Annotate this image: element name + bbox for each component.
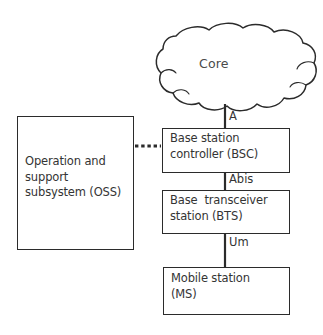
network-architecture-diagram: Core Operation and support subsystem (OS… (0, 0, 323, 335)
node-ms-label: Mobile station (MS) (171, 271, 250, 302)
interface-label-abis: Abis (229, 173, 253, 186)
node-bts-label: Base transceiver station (BTS) (170, 193, 268, 224)
core-cloud-label: Core (199, 56, 229, 71)
node-oss-label: Operation and support subsystem (OSS) (25, 154, 121, 201)
interface-label-um: Um (229, 236, 249, 249)
node-bsc-label: Base station controller (BSC) (170, 131, 258, 162)
core-cloud-shape (156, 23, 316, 110)
interface-label-a: A (229, 110, 237, 123)
